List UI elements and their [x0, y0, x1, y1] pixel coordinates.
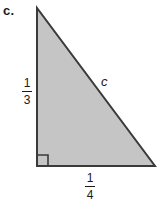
figure-canvas: c. 1 3 1 4 c — [0, 0, 161, 208]
hypotenuse-length-label: c — [101, 75, 108, 89]
vertical-leg-numerator: 1 — [23, 77, 32, 90]
vertical-leg-length-label: 1 3 — [18, 77, 36, 106]
fraction-bar — [22, 91, 32, 92]
horizontal-leg-denominator: 4 — [86, 188, 95, 201]
vertical-leg-denominator: 3 — [23, 93, 32, 106]
triangle-shape — [37, 8, 155, 166]
horizontal-leg-numerator: 1 — [86, 172, 95, 185]
horizontal-leg-length-label: 1 4 — [81, 172, 99, 201]
fraction-bar — [85, 186, 95, 187]
